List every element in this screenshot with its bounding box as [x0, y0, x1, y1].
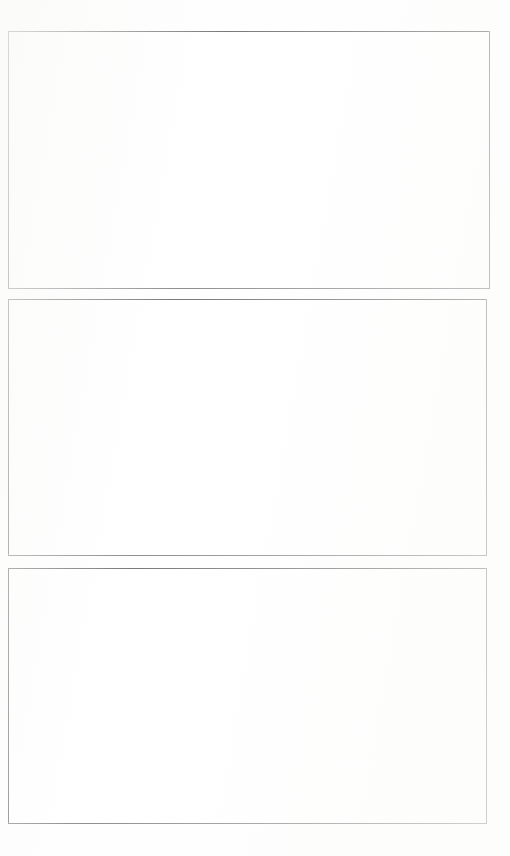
figure-frame-1 — [8, 31, 490, 289]
figure-frame-2-interior — [9, 300, 486, 555]
scanned-page — [0, 0, 510, 856]
figure-frame-1-interior — [9, 32, 489, 288]
figure-frame-2 — [8, 299, 487, 556]
figure-frame-3 — [8, 568, 487, 824]
figure-frame-3-interior — [9, 569, 486, 823]
